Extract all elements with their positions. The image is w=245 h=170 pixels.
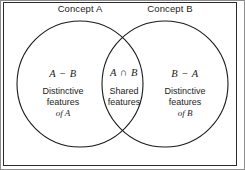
description-left-line2: features [28,97,98,108]
venn-diagram-figure: Concept A Concept B A − B A ∩ B B − A Di… [0,0,245,170]
circle-concept-b [102,21,228,147]
expression-a-minus-b: A − B [30,68,96,80]
description-shared-line2: features [96,97,152,108]
description-left-line1: Distinctive [28,86,98,97]
description-region-left: Distinctive features of A [28,86,98,119]
expression-a-intersect-b: A ∩ B [97,67,151,79]
description-region-right: Distinctive features of B [150,86,220,119]
concept-b-label: Concept B [128,4,212,15]
description-right-line1: Distinctive [150,86,220,97]
circle-concept-a [17,21,143,147]
description-right-line2: features [150,97,220,108]
description-shared-line1: Shared [96,86,152,97]
expression-b-minus-a: B − A [152,68,218,80]
venn-circles-group [0,0,245,170]
description-region-intersection: Shared features [96,86,152,108]
description-left-line3: of A [28,108,98,119]
description-right-line3: of B [150,108,220,119]
concept-a-label: Concept A [38,4,122,15]
